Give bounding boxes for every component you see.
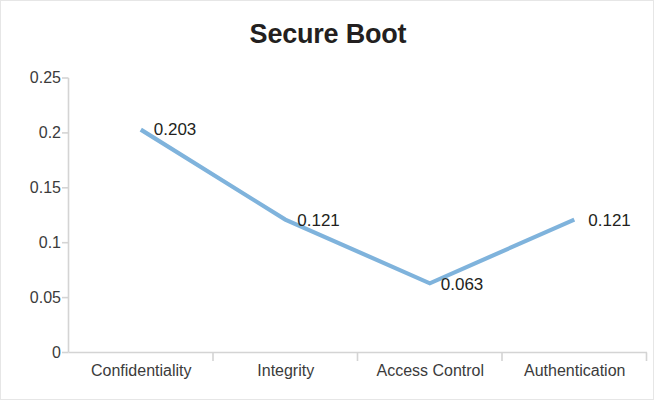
y-axis-ticks <box>62 78 69 353</box>
data-label-integrity: 0.121 <box>297 212 340 229</box>
plot-area <box>1 1 654 400</box>
x-tick-label-confidentiality: Confidentiality <box>69 363 214 395</box>
series-line-secure-boot <box>141 130 575 284</box>
x-tick-label-integrity: Integrity <box>214 363 359 395</box>
x-tick-label-authentication: Authentication <box>503 363 648 395</box>
data-label-authentication: 0.121 <box>588 212 631 229</box>
x-axis-category-labels: Confidentiality Integrity Access Control… <box>69 363 647 395</box>
x-tick-label-access-control: Access Control <box>358 363 503 395</box>
data-label-access-control: 0.063 <box>441 276 484 293</box>
data-label-confidentiality: 0.203 <box>154 121 197 138</box>
chart-container: Secure Boot 0.25 0.2 0.15 0.1 0.05 0 <box>0 0 654 400</box>
x-axis-ticks <box>213 353 647 362</box>
